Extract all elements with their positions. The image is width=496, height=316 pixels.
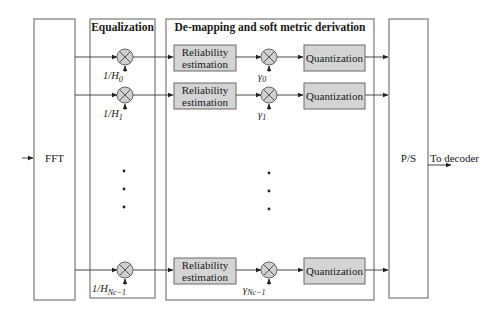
subcarrier-row-0: 1/H0 Reliability estimation γ0 Quantizat… [75, 45, 388, 84]
gamma-multiplier-icon [261, 262, 277, 278]
gamma-multiplier-icon [261, 49, 277, 65]
gamma-last: γNc−1 [243, 284, 265, 297]
svg-text:Reliability: Reliability [182, 84, 229, 96]
ps-label: P/S [401, 152, 416, 164]
eq-multiplier-icon [117, 262, 133, 278]
ellipsis-dots-equalization [123, 170, 126, 209]
equalization-title: Equalization [91, 21, 154, 34]
ellipsis-dots-demapping [268, 172, 271, 211]
svg-text:Reliability: Reliability [182, 259, 229, 271]
svg-text:Quantization: Quantization [306, 52, 363, 64]
fft-label: FFT [45, 152, 64, 164]
eq-coefficient-0: 1/H0 [103, 70, 123, 84]
demapping-title: De-mapping and soft metric derivation [174, 21, 366, 34]
subcarrier-row-last: 1/HNc−1 Reliability estimation γNc−1 Qua… [75, 258, 388, 297]
eq-multiplier-icon [117, 87, 133, 103]
gamma-0: γ0 [258, 71, 266, 84]
subcarrier-row-1: 1/H1 Reliability estimation γ1 Quantizat… [75, 83, 388, 122]
ofdm-receiver-diagram: FFT Equalization De-mapping and soft met… [0, 0, 496, 316]
eq-coefficient-last: 1/HNc−1 [92, 283, 126, 297]
gamma-1: γ1 [258, 109, 266, 122]
svg-text:estimation: estimation [182, 96, 228, 108]
svg-text:Quantization: Quantization [306, 265, 363, 277]
gamma-multiplier-icon [261, 87, 277, 103]
eq-multiplier-icon [117, 49, 133, 65]
ps-block: P/S [389, 19, 428, 298]
eq-coefficient-1: 1/H1 [103, 108, 123, 122]
svg-text:estimation: estimation [182, 58, 228, 70]
svg-text:Quantization: Quantization [306, 90, 363, 102]
to-decoder-label: To decoder [430, 152, 479, 164]
svg-text:estimation: estimation [182, 271, 228, 283]
svg-text:Reliability: Reliability [182, 46, 229, 58]
fft-block: FFT [34, 19, 75, 300]
